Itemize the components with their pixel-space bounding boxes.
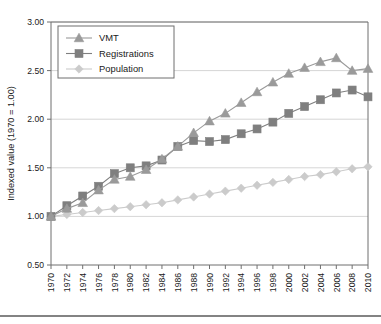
marker-square — [364, 93, 372, 101]
marker-square — [316, 96, 324, 104]
x-tick-label: 1974 — [78, 273, 88, 292]
marker-square — [75, 50, 83, 58]
x-tick-label: 1970 — [46, 273, 56, 292]
marker-square — [190, 137, 198, 145]
legend-item-registrations[interactable]: Registrations — [66, 48, 154, 59]
x-tick-label: 2006 — [332, 273, 342, 292]
figure-container: 0.501.001.502.002.503.001970197219741976… — [0, 0, 381, 324]
y-tick-label: 0.50 — [27, 260, 44, 270]
x-tick-label: 1984 — [157, 273, 167, 292]
x-tick-label: 2000 — [284, 273, 294, 292]
x-tick-label: 1978 — [110, 273, 120, 292]
marker-square — [253, 125, 261, 133]
marker-square — [237, 130, 245, 138]
legend-label: VMT — [99, 32, 119, 43]
x-tick-label: 1988 — [189, 273, 199, 292]
x-tick-label: 1986 — [173, 273, 183, 292]
y-tick-label: 3.00 — [27, 17, 44, 27]
x-tick-label: 2004 — [316, 273, 326, 292]
legend-label: Population — [99, 63, 143, 74]
marker-square — [285, 109, 293, 117]
y-tick-label: 2.00 — [27, 114, 44, 124]
marker-square — [126, 164, 134, 172]
x-tick-label: 1980 — [125, 273, 135, 292]
legend-label: Registrations — [99, 48, 154, 59]
x-tick-label: 2010 — [363, 273, 373, 292]
y-tick-label: 1.50 — [27, 163, 44, 173]
x-tick-label: 1982 — [141, 273, 151, 292]
x-tick-label: 2008 — [347, 273, 357, 292]
x-tick-label: 2002 — [300, 273, 310, 292]
x-tick-label: 1990 — [205, 273, 215, 292]
indexed-value-line-chart: 0.501.001.502.002.503.001970197219741976… — [0, 0, 381, 324]
marker-square — [301, 103, 309, 111]
x-tick-label: 1994 — [236, 273, 246, 292]
x-tick-label: 1998 — [268, 273, 278, 292]
y-tick-label: 1.00 — [27, 211, 44, 221]
x-tick-label: 1976 — [94, 273, 104, 292]
x-tick-label: 1996 — [252, 273, 262, 292]
x-tick-label: 1972 — [62, 273, 72, 292]
marker-square — [269, 118, 277, 126]
y-axis-title: Indexed value (1970 = 1.00) — [6, 86, 16, 201]
marker-square — [348, 86, 356, 94]
y-tick-label: 2.50 — [27, 66, 44, 76]
marker-square — [332, 89, 340, 97]
marker-square — [206, 138, 214, 146]
x-tick-label: 1992 — [221, 273, 231, 292]
marker-square — [221, 136, 229, 144]
